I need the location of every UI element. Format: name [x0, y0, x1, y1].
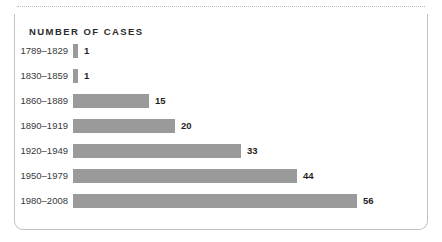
bar-value-label: 56: [363, 194, 374, 208]
bar-value-label: 15: [155, 94, 166, 108]
bar-row: 1890–191920: [0, 119, 442, 141]
bar-row: 1830–18591: [0, 69, 442, 91]
bar-category-label: 1890–1919: [0, 119, 68, 133]
top-dotted-divider: [17, 6, 425, 7]
bar-chart-plot: 1789–182911830–185911860–1889151890–1919…: [0, 44, 442, 229]
bar: [73, 144, 241, 158]
bar: [73, 44, 78, 58]
bar: [73, 119, 175, 133]
bar: [73, 194, 357, 208]
bar-category-label: 1789–1829: [0, 44, 68, 58]
bar-row: 1950–197944: [0, 169, 442, 191]
bar-category-label: 1920–1949: [0, 144, 68, 158]
bar-row: 1980–200856: [0, 194, 442, 216]
bar-value-label: 1: [84, 69, 89, 83]
bar-value-label: 1: [84, 44, 89, 58]
bar-category-label: 1860–1889: [0, 94, 68, 108]
bar: [73, 69, 78, 83]
bar-row: 1860–188915: [0, 94, 442, 116]
bar-row: 1789–18291: [0, 44, 442, 66]
bar-category-label: 1980–2008: [0, 194, 68, 208]
bar-value-label: 44: [303, 169, 314, 183]
bar: [73, 169, 297, 183]
bar-value-label: 20: [181, 119, 192, 133]
bar-row: 1920–194933: [0, 144, 442, 166]
bar-category-label: 1950–1979: [0, 169, 68, 183]
bar-category-label: 1830–1859: [0, 69, 68, 83]
chart-card-container: NUMBER OF CASES 1789–182911830–185911860…: [0, 0, 442, 242]
chart-title: NUMBER OF CASES: [29, 26, 144, 37]
bar-value-label: 33: [247, 144, 258, 158]
bar: [73, 94, 149, 108]
